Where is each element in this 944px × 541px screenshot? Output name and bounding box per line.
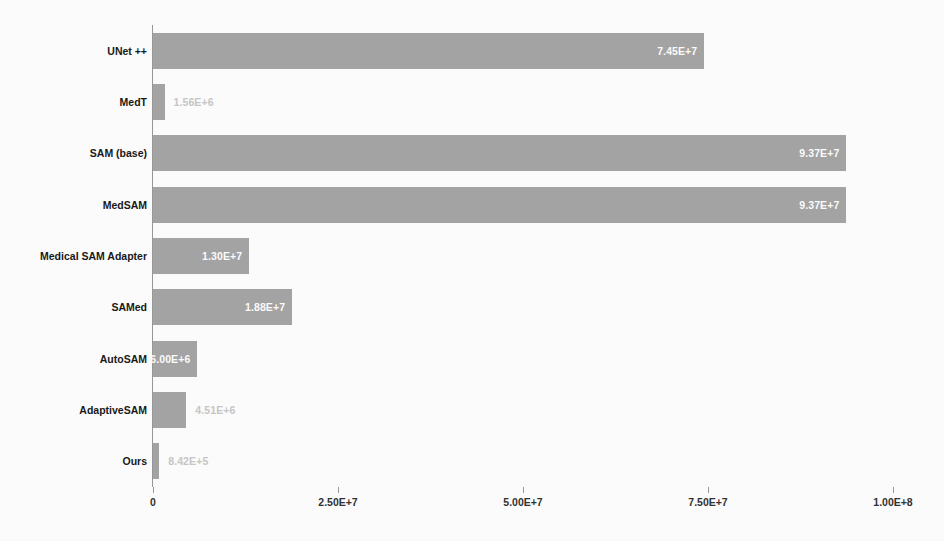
x-axis-tick-label: 1.00E+8: [873, 496, 912, 508]
bar: [153, 443, 159, 479]
bar-row: AdaptiveSAM4.51E+6: [153, 384, 893, 435]
bar: 1.30E+7: [153, 238, 249, 274]
x-axis-tick-label: 7.50E+7: [688, 496, 727, 508]
bar-value-label: 4.51E+6: [195, 404, 235, 416]
category-label: UNet ++: [0, 45, 153, 57]
category-label: Ours: [0, 455, 153, 467]
category-label: SAMed: [0, 301, 153, 313]
bar: 7.45E+7: [153, 33, 704, 69]
x-axis-tick-mark: [153, 487, 154, 493]
bar-row: MedT1.56E+6: [153, 76, 893, 127]
bar-row: SAM (base)9.37E+7: [153, 128, 893, 179]
category-label: AdaptiveSAM: [0, 404, 153, 416]
bar-row: Ours8.42E+5: [153, 436, 893, 487]
plot-area: UNet ++7.45E+7MedT1.56E+6SAM (base)9.37E…: [153, 25, 893, 487]
x-axis-tick-mark: [523, 487, 524, 493]
x-axis-tick-label: 0: [150, 496, 156, 508]
x-axis-tick-mark: [893, 487, 894, 493]
bar: [153, 392, 186, 428]
x-axis-tick-label: 5.00E+7: [503, 496, 542, 508]
x-axis-tick-label: 2.50E+7: [318, 496, 357, 508]
x-axis-tick-mark: [708, 487, 709, 493]
bar-row: AutoSAM6.00E+6: [153, 333, 893, 384]
bar-value-label: 7.45E+7: [657, 45, 697, 57]
bar: 9.37E+7: [153, 187, 846, 223]
bar-value-label: 9.37E+7: [799, 147, 839, 159]
bar: 6.00E+6: [153, 341, 197, 377]
category-label: SAM (base): [0, 147, 153, 159]
bar-row: UNet ++7.45E+7: [153, 25, 893, 76]
bar-value-label: 1.30E+7: [202, 250, 242, 262]
bar-chart: UNet ++7.45E+7MedT1.56E+6SAM (base)9.37E…: [0, 0, 944, 541]
bar-row: MedSAM9.37E+7: [153, 179, 893, 230]
bar: 1.88E+7: [153, 289, 292, 325]
category-label: AutoSAM: [0, 353, 153, 365]
category-label: MedSAM: [0, 199, 153, 211]
x-axis-tick-mark: [338, 487, 339, 493]
bar-value-label: 8.42E+5: [168, 455, 208, 467]
bar-value-label: 1.56E+6: [174, 96, 214, 108]
bar: [153, 84, 165, 120]
bar-value-label: 1.88E+7: [245, 301, 285, 313]
bar: 9.37E+7: [153, 135, 846, 171]
bar-value-label: 9.37E+7: [799, 199, 839, 211]
bar-value-label: 6.00E+6: [150, 353, 190, 365]
category-label: Medical SAM Adapter: [0, 250, 153, 262]
category-label: MedT: [0, 96, 153, 108]
bar-row: Medical SAM Adapter1.30E+7: [153, 230, 893, 281]
bar-row: SAMed1.88E+7: [153, 282, 893, 333]
